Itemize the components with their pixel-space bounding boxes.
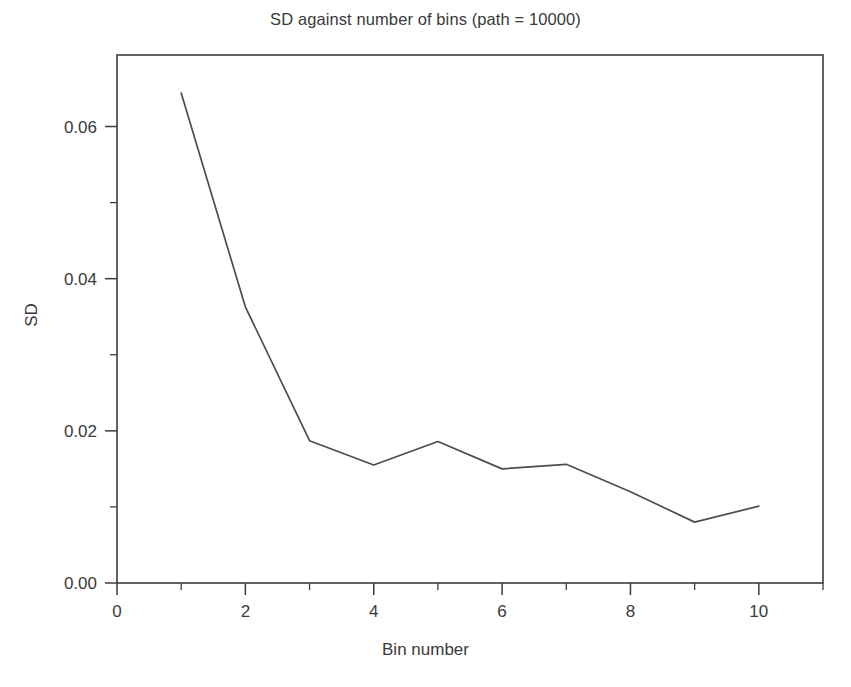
data-series-group [181, 93, 759, 522]
y-axis-tick-labels: 0.000.020.040.06 [64, 118, 97, 593]
y-tick-label: 0.00 [64, 574, 97, 593]
y-tick-label: 0.06 [64, 118, 97, 137]
y-tick-label: 0.04 [64, 270, 97, 289]
plot-frame [117, 55, 823, 583]
y-axis-ticks [105, 127, 117, 583]
x-tick-label: 8 [626, 602, 635, 621]
y-tick-label: 0.02 [64, 422, 97, 441]
x-tick-label: 0 [112, 602, 121, 621]
x-axis-ticks [117, 583, 823, 595]
chart-figure: SD against number of bins (path = 10000)… [0, 0, 851, 687]
x-axis-tick-labels: 0246810 [112, 602, 768, 621]
x-tick-label: 6 [497, 602, 506, 621]
y-axis-label: SD [22, 275, 42, 355]
x-tick-label: 4 [369, 602, 378, 621]
series-line-sd [181, 93, 759, 522]
x-axis-label: Bin number [0, 640, 851, 660]
x-tick-label: 2 [241, 602, 250, 621]
x-tick-label: 10 [749, 602, 768, 621]
plot-area: 0246810 0.000.020.040.06 [0, 0, 851, 687]
plot-frame-rect [117, 55, 823, 583]
